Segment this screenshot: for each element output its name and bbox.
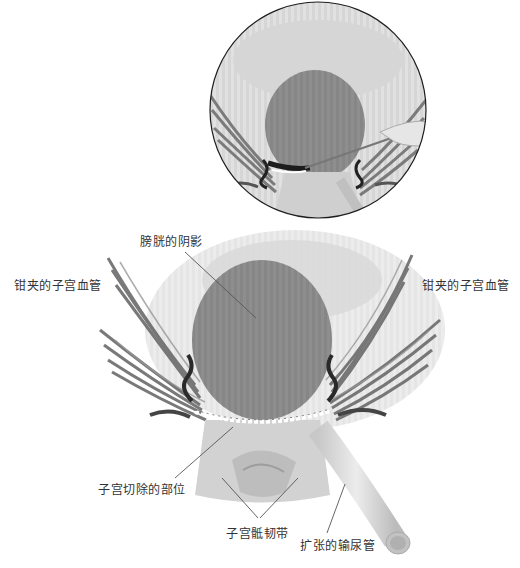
label-dilated-ureter: 扩张的输尿管: [300, 536, 375, 553]
label-bladder-shadow: 膀胱的阴影: [140, 232, 203, 249]
dilated-ureter-shape: [318, 428, 395, 540]
inset-magnified-view: [210, 0, 430, 220]
label-uterosacral-ligament: 子宫骶韧带: [226, 524, 289, 541]
bladder-shadow-shape: [192, 260, 332, 420]
label-clamped-vessels-right: 钳夹的子宫血管: [422, 276, 510, 293]
label-hysterectomy-site: 子宫切除的部位: [98, 480, 186, 497]
label-clamped-vessels-left: 钳夹的子宫血管: [14, 276, 102, 293]
